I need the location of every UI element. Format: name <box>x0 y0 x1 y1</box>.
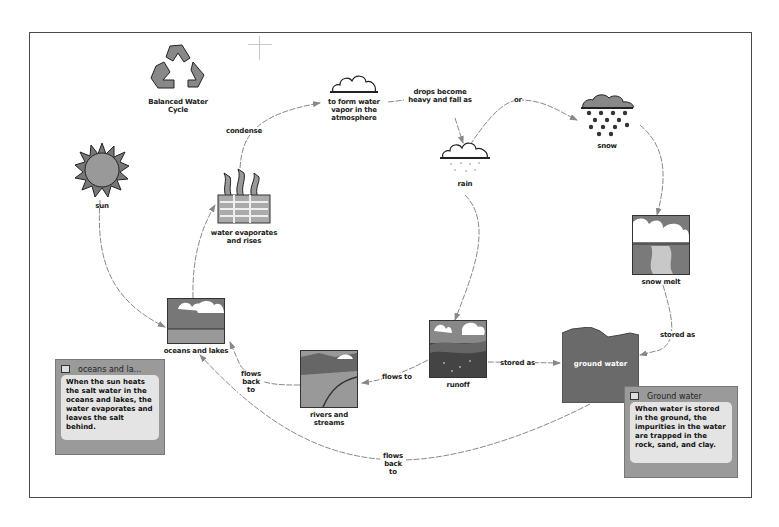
note-title: Ground water <box>647 392 702 401</box>
node-label: Balanced Water Cycle <box>140 98 216 114</box>
note-body[interactable]: When water is stored in the ground, the … <box>630 402 732 463</box>
snow-cloud-icon <box>577 92 637 138</box>
node-label: to form water vapor in the atmosphere <box>318 98 390 122</box>
note-title: oceans and la... <box>78 365 141 374</box>
cloud-icon <box>329 72 379 94</box>
node-label: rain <box>434 180 496 188</box>
note-body[interactable]: When the sun heats the salt water in the… <box>61 375 159 440</box>
link-label-drops-become-heavy: drops become heavy and fall as <box>404 88 476 104</box>
node-snow[interactable]: snow <box>575 92 639 150</box>
evaporation-icon <box>214 165 274 225</box>
recycle-icon <box>148 42 208 92</box>
note-oceans-and-lakes[interactable]: oceans and la... When the sun heats the … <box>55 359 165 455</box>
river-icon <box>300 350 358 408</box>
node-water-vapor[interactable]: to form water vapor in the atmosphere <box>318 72 390 122</box>
node-label: ground water <box>562 360 639 368</box>
note-collapse-toggle[interactable] <box>630 392 639 400</box>
node-sun[interactable]: sun <box>72 142 132 210</box>
node-rain[interactable]: rain <box>434 140 496 188</box>
link-label-stored-as-snowmelt: stored as <box>660 331 695 339</box>
node-label: snow melt <box>630 278 692 286</box>
node-water-evaporates[interactable]: water evaporates and rises <box>208 165 280 245</box>
node-label: water evaporates and rises <box>208 229 280 245</box>
link-label-flows-back-to-ground: flows back to <box>380 452 406 476</box>
ocean-icon <box>167 298 225 344</box>
node-oceans-and-lakes[interactable]: oceans and lakes <box>160 298 232 355</box>
node-label: runoff <box>427 381 489 389</box>
node-label: rivers and streams <box>296 411 362 427</box>
snow-melt-icon <box>632 215 690 275</box>
node-runoff[interactable]: runoff <box>427 320 489 389</box>
sun-icon <box>74 142 130 198</box>
node-snow-melt[interactable]: snow melt <box>630 215 692 286</box>
runoff-icon <box>429 320 487 378</box>
node-label: oceans and lakes <box>160 347 232 355</box>
node-rivers-and-streams[interactable]: rivers and streams <box>296 350 362 427</box>
node-label: sun <box>72 202 132 210</box>
link-label-condense: condense <box>226 127 262 135</box>
link-label-flows-back-to-rivers: flows back to <box>238 370 264 394</box>
rain-cloud-icon <box>437 140 493 176</box>
node-balanced-water-cycle[interactable]: Balanced Water Cycle <box>140 42 216 114</box>
note-ground-water[interactable]: Ground water When water is stored in the… <box>624 386 738 478</box>
link-label-or: or <box>514 96 522 104</box>
link-label-stored-as-runoff: stored as <box>500 359 535 367</box>
note-collapse-toggle[interactable] <box>61 365 70 373</box>
link-label-flows-to: flows to <box>382 373 412 381</box>
node-label: snow <box>575 142 639 150</box>
